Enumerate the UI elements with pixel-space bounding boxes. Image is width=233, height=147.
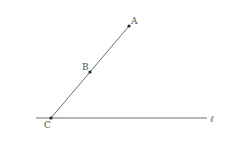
point-b bbox=[88, 70, 91, 73]
label-line-l: ℓ bbox=[210, 114, 214, 124]
label-b: B bbox=[82, 62, 89, 72]
label-a: A bbox=[130, 16, 138, 26]
diagram-svg: A B C ℓ bbox=[0, 0, 233, 147]
label-c: C bbox=[44, 120, 51, 130]
geometry-diagram: A B C ℓ bbox=[0, 0, 233, 147]
